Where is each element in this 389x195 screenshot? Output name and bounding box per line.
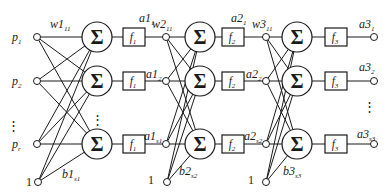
sum-symbol: Σ xyxy=(90,26,103,48)
sum-symbol: Σ xyxy=(290,133,303,155)
bias-value: 1 xyxy=(148,173,154,187)
ellipsis-outputs: ⋮ xyxy=(363,99,376,114)
interlayer-node xyxy=(163,141,170,148)
sum-symbol: Σ xyxy=(193,133,206,155)
bias-node xyxy=(35,179,42,186)
interlayer-node xyxy=(263,141,270,148)
interlayer-node xyxy=(263,78,270,85)
bias-node xyxy=(164,179,171,186)
interlayer-node xyxy=(163,78,170,85)
sum-symbol: Σ xyxy=(193,70,206,92)
interlayer-node xyxy=(163,34,170,41)
sum-symbol: Σ xyxy=(290,70,303,92)
sum-symbol: Σ xyxy=(193,26,206,48)
bias-value: 1 xyxy=(248,173,254,187)
sum-symbol: Σ xyxy=(290,26,303,48)
neural-network-diagram: Σ Σ Σ Σ Σ Σ Σ Σ Σ f1 f1 f1 f2 f2 f2 f3 f… xyxy=(0,0,389,195)
input-node xyxy=(34,78,41,85)
output-node xyxy=(371,78,378,85)
sum-symbol: Σ xyxy=(90,133,103,155)
input-node xyxy=(34,34,41,41)
bias-node xyxy=(263,179,270,186)
bias-value: 1 xyxy=(26,175,32,189)
output-node xyxy=(371,34,378,41)
input-node xyxy=(34,141,41,148)
ellipsis-layer1: ⋮ xyxy=(91,112,104,127)
ellipsis-inputs: ⋮ xyxy=(7,118,20,133)
diagram-canvas: Σ Σ Σ Σ Σ Σ Σ Σ Σ f1 f1 f1 f2 f2 f2 f3 f… xyxy=(0,0,389,195)
sum-symbol: Σ xyxy=(90,70,103,92)
interlayer-node xyxy=(263,34,270,41)
